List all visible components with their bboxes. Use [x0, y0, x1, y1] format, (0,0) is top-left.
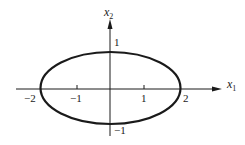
x-axis-label: x1 — [226, 77, 236, 93]
tick-label-y-pos1: 1 — [114, 36, 120, 48]
tick-label-y-neg1: −1 — [114, 124, 126, 136]
tick-label-x-neg1: −1 — [70, 92, 82, 104]
y-axis-label: x2 — [103, 5, 113, 21]
tick-label-x-neg2: −2 — [24, 92, 36, 104]
x-axis-arrow-icon — [212, 87, 222, 92]
tick-label-x-pos1: 1 — [141, 92, 147, 104]
ellipse-diagram: x1 x2 −2 −1 1 2 1 −1 — [0, 0, 245, 145]
tick-label-x-pos2: 2 — [183, 92, 189, 104]
